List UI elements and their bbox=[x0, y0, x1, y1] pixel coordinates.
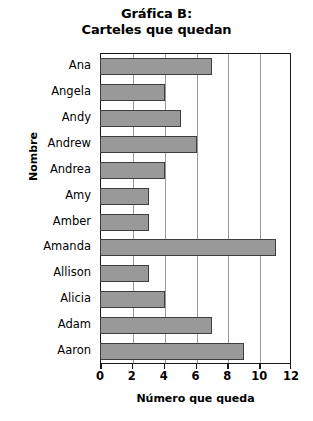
plot-area bbox=[100, 53, 291, 364]
x-axis-tick-label: 6 bbox=[191, 369, 199, 383]
bar bbox=[100, 84, 165, 101]
x-axis-tick-label: 0 bbox=[96, 369, 104, 383]
y-axis-tick-label: Andrew bbox=[48, 131, 91, 157]
chart-title: Gráfica B: Carteles que quedan bbox=[0, 6, 313, 38]
bar-row bbox=[101, 80, 290, 106]
x-axis-tick-labels: 024681012 bbox=[100, 369, 291, 385]
x-axis-tick-label: 12 bbox=[283, 369, 299, 383]
y-axis-tick-label: Aaron bbox=[57, 338, 91, 364]
y-axis-tick-label: Andy bbox=[62, 105, 91, 131]
bar bbox=[100, 239, 276, 256]
bar-row bbox=[101, 158, 290, 184]
y-axis-tick-label: Amanda bbox=[43, 234, 91, 260]
chart-title-line1: Gráfica B: bbox=[121, 6, 192, 21]
bar bbox=[100, 291, 165, 308]
y-axis-tick-label: Angela bbox=[51, 79, 91, 105]
bar-row bbox=[101, 106, 290, 132]
x-axis-tick-label: 4 bbox=[160, 369, 168, 383]
y-axis-tick-label: Alicia bbox=[60, 286, 91, 312]
bar-row bbox=[101, 287, 290, 313]
x-axis-tick-label: 2 bbox=[128, 369, 136, 383]
bar bbox=[100, 265, 149, 282]
chart-title-line2: Carteles que quedan bbox=[0, 22, 313, 38]
bar bbox=[100, 343, 244, 360]
bar bbox=[100, 58, 212, 75]
y-axis-tick-label: Andrea bbox=[50, 157, 91, 183]
y-axis-tick-labels: AnaAngelaAndyAndrewAndreaAmyAmberAmandaA… bbox=[0, 53, 96, 364]
bar bbox=[100, 136, 197, 153]
bar bbox=[100, 188, 149, 205]
bar bbox=[100, 214, 149, 231]
bar-chart: Gráfica B: Carteles que quedan Nombre An… bbox=[0, 0, 313, 421]
bar-row bbox=[101, 261, 290, 287]
bar-row bbox=[101, 184, 290, 210]
bar-row bbox=[101, 54, 290, 80]
x-axis-tick-label: 8 bbox=[223, 369, 231, 383]
bar-row bbox=[101, 132, 290, 158]
y-axis-tick-label: Ana bbox=[69, 53, 91, 79]
x-axis-title: Número que queda bbox=[100, 392, 291, 405]
bar-series bbox=[101, 54, 290, 363]
y-axis-tick-label: Amy bbox=[65, 183, 91, 209]
x-axis-tick-label: 10 bbox=[251, 369, 267, 383]
bar-row bbox=[101, 210, 290, 236]
bar bbox=[100, 162, 165, 179]
bar bbox=[100, 317, 212, 334]
y-axis-tick-label: Adam bbox=[58, 312, 91, 338]
bar-row bbox=[101, 235, 290, 261]
bar-row bbox=[101, 313, 290, 339]
bar bbox=[100, 110, 181, 127]
bar-row bbox=[101, 339, 290, 365]
y-axis-tick-label: Allison bbox=[53, 260, 91, 286]
y-axis-tick-label: Amber bbox=[53, 209, 91, 235]
